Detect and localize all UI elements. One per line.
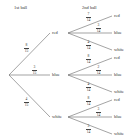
node-red: red	[52, 31, 58, 36]
leaf-white-blue: blue	[114, 115, 122, 120]
node-white: white	[52, 115, 62, 120]
prob-white-white: 314	[86, 125, 91, 134]
prob-red-white: 414	[86, 41, 91, 50]
leaf-white-red: red	[114, 98, 120, 103]
leaf-white-white: white	[114, 132, 124, 137]
header-first-ball: 1st ball	[14, 5, 27, 10]
prob-red-blue: 314	[96, 24, 101, 33]
leaf-blue-red: red	[114, 56, 120, 61]
leaf-blue-blue: blue	[114, 73, 122, 78]
prob-blue-blue: 214	[96, 66, 101, 75]
leaf-red-blue: blue	[114, 31, 122, 36]
node-blue: blue	[52, 73, 60, 78]
prob-blue-red: 814	[86, 55, 91, 64]
leaf-blue-white: white	[114, 90, 124, 95]
prob-blue-white: 414	[86, 83, 91, 92]
branch-red	[9, 33, 50, 75]
prob-blue: 315	[32, 66, 37, 75]
header-second-ball: 2nd ball	[82, 5, 97, 10]
prob-red-red: 714	[86, 13, 91, 22]
prob-white: 415	[24, 98, 29, 107]
prob-white-red: 814	[86, 97, 91, 106]
tree-lines	[0, 0, 128, 140]
leaf-red-red: red	[114, 14, 120, 19]
prob-white-blue: 314	[96, 108, 101, 117]
branch-white	[9, 75, 50, 117]
prob-red: 815	[24, 44, 29, 53]
leaf-red-white: white	[114, 48, 124, 53]
